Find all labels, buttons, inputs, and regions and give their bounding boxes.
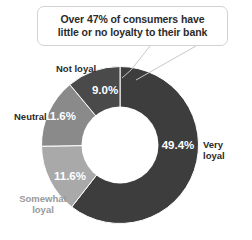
slice-label-very-loyal-line-2: loyal: [203, 150, 225, 161]
loyalty-donut-figure: Over 47% of consumers have little or no …: [0, 0, 252, 240]
callout-box: Over 47% of consumers have little or no …: [37, 6, 228, 46]
callout-line-1: Over 47% of consumers have: [61, 13, 205, 27]
slice-value-somewhat-loyal: 11.6%: [48, 170, 92, 182]
callout-line-2: little or no loyalty to their bank: [58, 26, 207, 40]
slice-label-very-loyal: Very loyal: [203, 139, 225, 161]
donut-hole: [82, 107, 159, 184]
slice-label-not-loyal: Not loyal: [56, 63, 96, 74]
slice-label-somewhat-loyal-line-2: loyal: [8, 204, 78, 215]
slice-value-very-loyal: 49.4%: [156, 139, 200, 151]
slice-label-somewhat-loyal: Somewhat loyal: [8, 193, 78, 215]
slice-label-somewhat-loyal-line-1: Somewhat: [8, 193, 78, 204]
slice-value-not-loyal: 9.0%: [85, 84, 125, 96]
slice-label-neutral: Neutral: [14, 111, 47, 122]
slice-label-very-loyal-line-1: Very: [203, 139, 225, 150]
